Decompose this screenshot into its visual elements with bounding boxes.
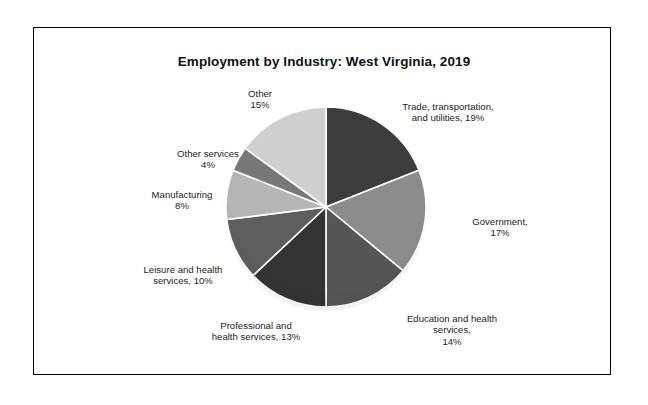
slice-label-other: Other 15% — [212, 88, 308, 111]
slice-label-leisure-and-health-services: Leisure and health services, 10% — [112, 264, 254, 287]
pie-chart — [224, 105, 428, 309]
slice-label-government: Government, 17% — [444, 216, 556, 239]
pie-svg — [224, 105, 428, 309]
figure-canvas: Employment by Industry: West Virginia, 2… — [0, 0, 648, 405]
slice-label-other-services: Other services 4% — [142, 148, 274, 171]
chart-title: Employment by Industry: West Virginia, 2… — [0, 54, 648, 69]
slice-label-education-and-health-services: Education and health services, 14% — [378, 313, 526, 347]
slice-label-professional-and-health-services: Professional and health services, 13% — [176, 320, 336, 343]
slice-label-trade-transportation-utilities: Trade, transportation, and utilities, 19… — [372, 101, 524, 124]
pie-slices — [226, 107, 426, 307]
slice-label-manufacturing: Manufacturing 8% — [118, 189, 246, 212]
